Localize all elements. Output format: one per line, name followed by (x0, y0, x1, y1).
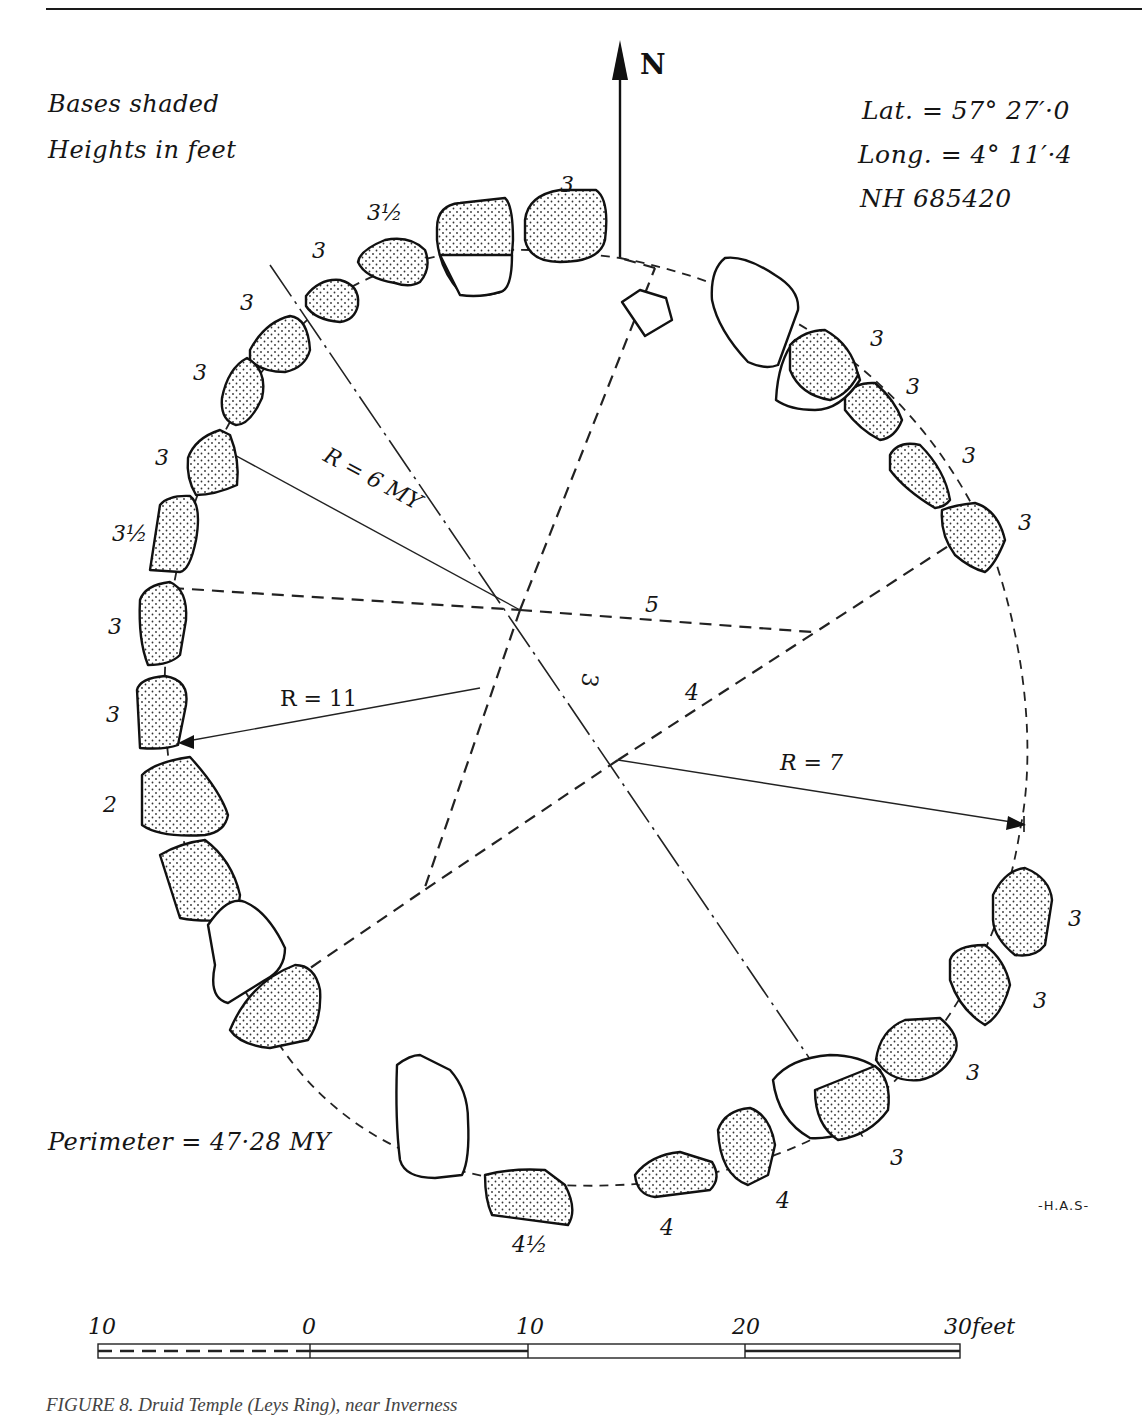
author-initials: -H.A.S- (1038, 1198, 1089, 1213)
stone-s-4 (485, 1170, 572, 1225)
stone-w-1 (188, 430, 238, 495)
radius-label-6my: R = 6 MY (319, 442, 428, 516)
construction-label-5: 5 (645, 592, 659, 617)
height-label: 3 (962, 443, 976, 468)
height-label: 3 (1068, 906, 1082, 931)
north-arrow-icon (612, 40, 628, 258)
stone-top-2-base (440, 255, 512, 296)
stone-top-1 (525, 190, 606, 262)
stone-w-3 (140, 582, 187, 665)
stone-inner-pentagon (622, 290, 672, 336)
north-label: N (640, 48, 666, 81)
stone-s-unshaded (396, 1055, 468, 1178)
height-label: 3½ (112, 521, 147, 546)
stone-nw-2 (222, 358, 264, 425)
scale-unit: feet (970, 1314, 1015, 1339)
height-label: 3 (240, 290, 254, 315)
scale-label: 20 (731, 1314, 760, 1339)
height-label: 3 (906, 374, 920, 399)
construction-label-3: 3 (576, 671, 603, 689)
stone-se-1 (993, 868, 1052, 956)
height-label: 3 (193, 360, 207, 385)
height-label: 4½ (511, 1232, 547, 1257)
height-label: 3 (106, 702, 120, 727)
height-label: 4 (775, 1188, 790, 1213)
scale-label: 0 (302, 1314, 316, 1339)
height-label: 2 (102, 792, 117, 817)
height-label: 3 (155, 445, 169, 470)
height-label: 3 (108, 614, 122, 639)
stone-ne-unshaded (712, 258, 798, 367)
construction-label-4: 4 (684, 680, 699, 705)
scale-label: 10 (516, 1314, 544, 1339)
height-label: 3 (1033, 988, 1047, 1013)
height-label: 4 (659, 1215, 674, 1240)
height-label: 3 (890, 1145, 904, 1170)
radius-label-7: R = 7 (779, 750, 843, 775)
stone-w-5 (142, 757, 228, 836)
stone-se-2 (950, 945, 1010, 1025)
scale-label: 10 (88, 1314, 116, 1339)
stone-nw-0 (306, 280, 358, 322)
stone-height-labels: 3 3½ 3 3 3 3 3½ 3 3 2 3 3 3 3 3 3 3 3 4 … (102, 172, 1082, 1257)
stone-w-4 (137, 676, 187, 749)
stone-nw-1 (250, 316, 310, 372)
height-label: 3½ (367, 200, 402, 225)
height-label: 3 (560, 172, 574, 197)
height-label: 3 (312, 238, 326, 263)
stone-w-2 (150, 496, 198, 572)
stone-se-3 (876, 1018, 957, 1080)
stone-e-2 (942, 503, 1005, 572)
figure-caption: FIGURE 8. Druid Temple (Leys Ring), near… (46, 1394, 457, 1416)
stone-s-3 (635, 1152, 717, 1197)
height-label: 3 (870, 326, 884, 351)
radius-label-11: R = 11 (280, 686, 357, 711)
stone-ne-2 (845, 383, 902, 440)
scale-bar: 10 0 10 20 30 feet (88, 1314, 1015, 1358)
height-label: 3 (1018, 510, 1032, 535)
stone-s-2 (718, 1108, 775, 1185)
height-label: 3 (966, 1060, 980, 1085)
scale-label: 30 (944, 1314, 972, 1339)
stones (137, 190, 1052, 1225)
